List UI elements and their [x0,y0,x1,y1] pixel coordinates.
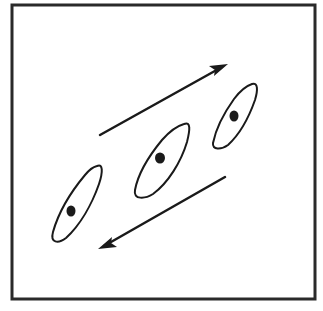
nucleus-icon [67,206,76,217]
cell-migration-diagram [0,0,323,311]
nucleus-icon [155,153,165,164]
nucleus-icon [230,111,239,122]
diagram-frame [12,5,315,299]
